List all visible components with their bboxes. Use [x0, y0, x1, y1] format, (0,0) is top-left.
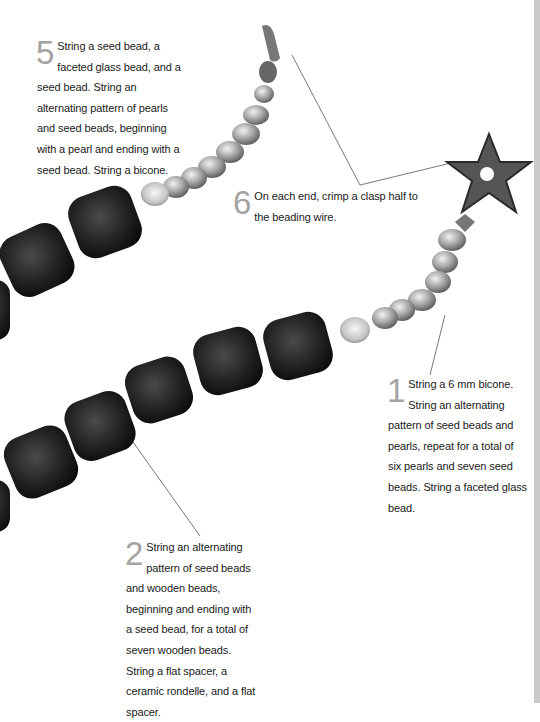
leader-line-step6-clasp: [292, 55, 360, 185]
instruction-step-5: 5 String a seed bead, a faceted glass be…: [37, 36, 187, 180]
step-number: 6: [233, 188, 251, 226]
step-text: On each end, crimp a clasp half to the b…: [234, 186, 419, 227]
leader-line-step6-star: [360, 162, 455, 185]
starfish-clasp: [447, 134, 531, 212]
step-text: String a seed bead, a faceted glass bead…: [37, 36, 187, 180]
wooden-bead: [63, 181, 147, 264]
wooden-bead: [0, 217, 80, 303]
wooden-bead: [120, 352, 198, 428]
instruction-step-1: 1 String a 6 mm bicone. String an altern…: [388, 374, 528, 518]
leader-line-step2: [133, 442, 200, 536]
step-number: 5: [36, 38, 54, 76]
step-number: 2: [125, 539, 143, 577]
instruction-step-6: 6 On each end, crimp a clasp half to the…: [234, 186, 419, 227]
lobster-clasp: [262, 25, 280, 62]
step-number: 1: [387, 376, 405, 414]
step-text: String an alternating pattern of seed be…: [126, 537, 256, 722]
bicone: [455, 214, 475, 232]
wooden-bead: [0, 480, 10, 532]
instruction-step-2: 2 String an alternating pattern of seed …: [126, 537, 256, 722]
wooden-bead: [259, 308, 337, 384]
wooden-bead: [0, 280, 10, 340]
wooden-bead: [189, 323, 267, 399]
step-text: String a 6 mm bicone. String an alternat…: [388, 374, 528, 518]
leader-line-step1: [430, 315, 445, 375]
page-edge-stripe: [534, 0, 540, 703]
